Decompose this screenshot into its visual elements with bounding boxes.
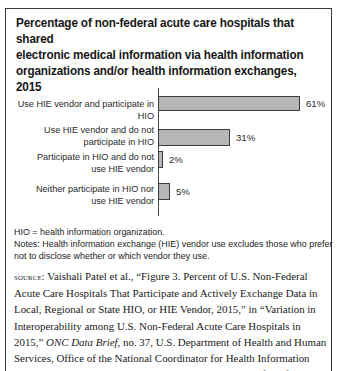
value-label: 61%: [306, 98, 325, 110]
category-label-line: participate in HIO: [12, 136, 155, 148]
source-label: source:: [14, 271, 45, 282]
value-label: 31%: [236, 132, 255, 144]
category-label-line: Use HIE vendor and do not: [12, 124, 155, 136]
source-line: Vaishali Patel et al., “Figure 3. Percen…: [45, 270, 308, 282]
source-line: , no. 37, U.S. Department of Health and …: [118, 336, 327, 348]
category-label-line: Neither participate in HIO nor: [12, 183, 155, 195]
value-label: 5%: [176, 186, 190, 198]
category-label: Use HIE vendor and participate in HIO: [12, 98, 155, 122]
source-line: Interoperability among U.S. Non-Federal …: [14, 318, 332, 334]
bar-chart: Use HIE vendor and participate in HIO 61…: [0, 0, 342, 230]
bar: [158, 151, 163, 168]
category-label: Neither participate in HIO nor use HIE v…: [12, 183, 155, 207]
value-label: 2%: [169, 154, 183, 166]
category-label-line: use HIE vendor: [12, 163, 155, 175]
category-label-line: use HIE vendor: [12, 195, 155, 207]
abbreviation-note: HIO = health information organization.: [14, 226, 321, 238]
category-label-line: Use HIE vendor and participate in HIO: [12, 98, 155, 122]
category-label: Participate in HIO and do not use HIE ve…: [12, 151, 155, 175]
source-citation: source: Vaishali Patel et al., “Figure 3…: [14, 268, 342, 371]
chart-notes: HIO = health information organization. N…: [14, 226, 334, 262]
source-line: Services, Office of the National Coordin…: [14, 350, 332, 366]
source-line: 2015,”: [14, 336, 46, 348]
category-label: Use HIE vendor and do not participate in…: [12, 124, 155, 148]
source-url-line: Technology, July 2016, https://www.healt…: [14, 366, 332, 371]
note-line: not to disclose whether or which vendor …: [14, 250, 321, 262]
bar: [158, 183, 170, 200]
bar: [158, 129, 230, 146]
bar: [158, 96, 300, 111]
note-line: Notes: Health information exchange (HIE)…: [14, 238, 321, 250]
category-label-line: Participate in HIO and do not: [12, 151, 155, 163]
source-line: Local, Regional or State HIO, or HIE Ven…: [14, 301, 332, 317]
source-line: Acute Care Hospitals That Participate an…: [14, 285, 332, 301]
publication-title: ONC Data Brief: [46, 336, 117, 348]
